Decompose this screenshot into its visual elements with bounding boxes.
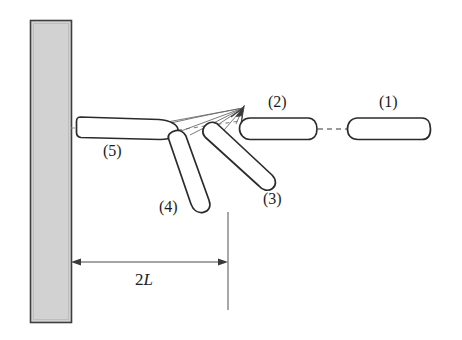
rod-5-outline [77, 117, 179, 140]
dimension-arrowhead-left [71, 259, 81, 266]
rod-5 [77, 117, 179, 140]
dimension-label-prefix: 2 [135, 270, 144, 289]
rod-2 [240, 118, 318, 140]
diagram-canvas [0, 0, 462, 340]
rod-label-3: (3) [263, 190, 282, 208]
rod-label-1: (1) [379, 93, 398, 111]
dimension-2L-group [71, 212, 228, 310]
physics-diagram-rod-wall-impact: (1) (2) (3) (4) (5) 2L [0, 0, 462, 340]
dimension-label-2L: 2L [135, 270, 153, 290]
dimension-label-variable: L [144, 270, 153, 289]
rigid-wall [31, 21, 72, 323]
rod-label-2: (2) [268, 93, 287, 111]
rod-2-outline [240, 118, 318, 140]
dimension-arrowhead-right [218, 259, 228, 266]
rod-label-4: (4) [159, 198, 178, 216]
rigid-wall-group [31, 21, 72, 323]
rod-1-outline [348, 118, 431, 140]
rod-1 [348, 118, 431, 140]
rod-label-5: (5) [103, 142, 122, 160]
